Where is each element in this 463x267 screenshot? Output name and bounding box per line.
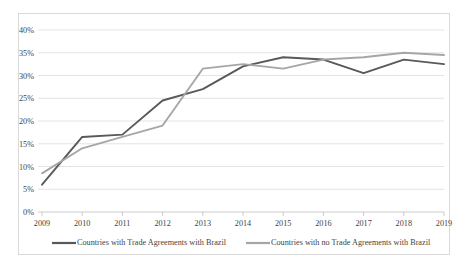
chart-container: 0%5%10%15%20%25%30%35%40% 20092010201120…	[0, 0, 463, 267]
x-axis-labels-group: 2009201020112012201320142015201620172018…	[34, 219, 452, 228]
x-axis-tick-label: 2011	[114, 219, 130, 228]
x-axis-tick-label: 2009	[34, 219, 50, 228]
y-axis-tick-label: 0%	[23, 208, 34, 217]
y-axis-tick-label: 10%	[19, 163, 34, 172]
x-axis-ticks-group	[42, 212, 444, 216]
y-axis-tick-label: 30%	[19, 72, 34, 81]
legend-label-2: Countries with no Trade Agreements with …	[271, 238, 431, 247]
x-axis-tick-label: 2017	[355, 219, 371, 228]
x-axis-tick-label: 2010	[74, 219, 90, 228]
x-axis-tick-label: 2014	[235, 219, 251, 228]
chart-svg: 0%5%10%15%20%25%30%35%40% 20092010201120…	[0, 0, 463, 267]
y-axis-tick-label: 25%	[19, 94, 34, 103]
data-series-group	[42, 53, 444, 185]
series-line-2	[42, 53, 444, 174]
legend-label-1: Countries with Trade Agreements with Bra…	[77, 238, 227, 247]
y-axis-tick-label: 5%	[23, 185, 34, 194]
chart-legend: Countries with Trade Agreements with Bra…	[52, 238, 431, 247]
y-axis-tick-label: 40%	[19, 26, 34, 35]
y-axis-tick-label: 20%	[19, 117, 34, 126]
x-axis-tick-label: 2016	[315, 219, 331, 228]
x-axis-tick-label: 2012	[154, 219, 170, 228]
x-axis-tick-label: 2015	[275, 219, 291, 228]
y-axis-labels-group: 0%5%10%15%20%25%30%35%40%	[19, 26, 34, 217]
x-axis-tick-label: 2013	[195, 219, 211, 228]
gridlines-group	[38, 30, 444, 212]
x-axis-tick-label: 2019	[436, 219, 452, 228]
y-axis-tick-label: 35%	[19, 49, 34, 58]
x-axis-tick-label: 2018	[396, 219, 412, 228]
y-axis-tick-label: 15%	[19, 140, 34, 149]
